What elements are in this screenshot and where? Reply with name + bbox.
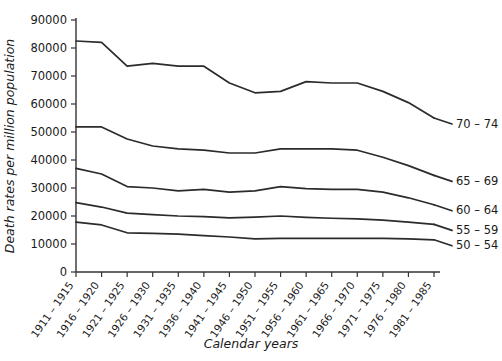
series-line [76,222,434,240]
series-leader-line [434,118,452,124]
series-label: 55 – 59 [456,223,498,237]
y-tick-label: 30000 [30,181,67,195]
series-leader-line [434,224,452,230]
y-tick-label: 50000 [30,125,67,139]
series-line [76,203,434,225]
series-label: 60 – 64 [456,203,498,217]
x-axis-ticks: 1911 – 19151916 – 19201921 – 19251926 – … [28,272,434,340]
y-tick-label: 90000 [30,13,67,27]
series-line [76,127,434,175]
death-rates-line-chart: 0100002000030000400005000060000700008000… [0,0,502,361]
x-axis-title: Calendar years [204,336,299,351]
series-label: 50 – 54 [456,238,498,252]
series-line [76,41,434,118]
y-tick-label: 70000 [30,69,67,83]
series-leader-line [434,205,452,211]
y-tick-label: 10000 [30,237,67,251]
series-leader-line [434,175,452,181]
series-label: 70 – 74 [456,117,498,131]
series-line [76,168,434,204]
y-tick-label: 80000 [30,41,67,55]
series-lines [76,41,434,240]
y-tick-label: 20000 [30,209,67,223]
chart-canvas: 0100002000030000400005000060000700008000… [0,0,502,361]
y-tick-label: 0 [60,265,67,279]
y-tick-label: 40000 [30,153,67,167]
y-tick-label: 60000 [30,97,67,111]
series-leader-line [434,240,452,246]
series-labels: 70 – 7465 – 6960 – 6455 – 5950 – 54 [434,117,498,253]
y-axis-ticks: 0100002000030000400005000060000700008000… [30,13,76,279]
series-label: 65 – 69 [456,174,498,188]
y-axis-title: Death rates per million population [2,39,17,254]
